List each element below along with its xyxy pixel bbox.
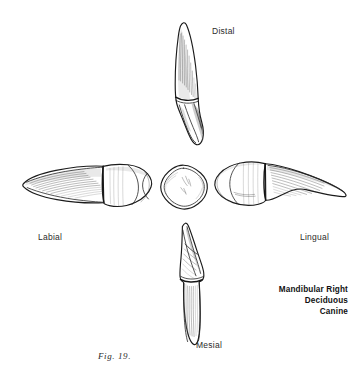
view-label-labial: Labial <box>38 233 62 242</box>
caption-line-3: Canine <box>238 306 348 317</box>
tooth-lingual-view-icon <box>212 152 352 218</box>
figure-caption-block: Mandibular Right Deciduous Canine <box>238 284 348 318</box>
dental-figure: Distal <box>0 0 363 373</box>
view-label-mesial: Mesial <box>196 341 222 350</box>
tooth-mesial-view-icon <box>150 218 230 348</box>
caption-line-1: Mandibular Right <box>238 284 348 295</box>
view-label-distal: Distal <box>212 27 235 36</box>
tooth-lingual-view <box>212 152 352 218</box>
tooth-incisal-view <box>155 160 213 216</box>
tooth-distal-view <box>150 18 230 148</box>
tooth-distal-view-icon <box>150 18 230 148</box>
tooth-labial-view-icon <box>18 152 163 218</box>
tooth-labial-view <box>18 152 163 218</box>
figure-number: Fig. 19. <box>98 351 131 361</box>
caption-line-2: Deciduous <box>238 295 348 306</box>
view-label-lingual: Lingual <box>300 233 329 242</box>
tooth-incisal-view-icon <box>155 160 213 216</box>
tooth-mesial-view <box>150 218 230 348</box>
